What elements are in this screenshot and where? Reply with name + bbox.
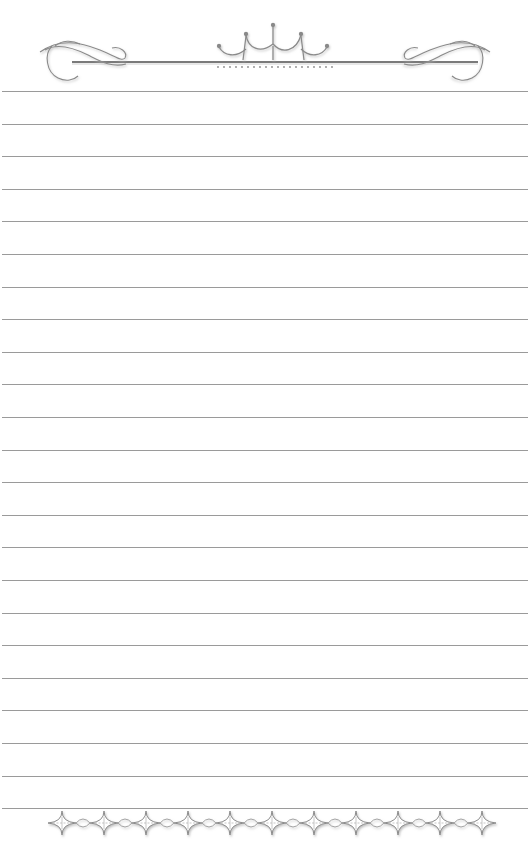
diamond-icon <box>300 811 328 835</box>
ruled-line <box>2 124 528 125</box>
ruled-line <box>2 254 528 255</box>
ruled-line <box>2 580 528 581</box>
ruled-line <box>2 352 528 353</box>
ruled-line <box>2 678 528 679</box>
diamond-icon <box>342 811 370 835</box>
right-scroll-flourish-icon <box>404 41 490 80</box>
ruled-line <box>2 189 528 190</box>
diamond-chain <box>48 811 496 835</box>
ruled-line <box>2 450 528 451</box>
ruled-line <box>2 287 528 288</box>
lined-paper-page <box>0 0 530 863</box>
diamond-icon <box>384 811 412 835</box>
ruled-line <box>2 221 528 222</box>
center-crown-icon <box>218 24 329 61</box>
diamond-icon <box>132 811 160 835</box>
ruled-line <box>2 613 528 614</box>
diamond-icon <box>468 811 496 835</box>
diamond-icon <box>426 811 454 835</box>
ruled-line <box>2 515 528 516</box>
ruled-line <box>2 547 528 548</box>
dotted-fringe <box>217 66 333 68</box>
header-bar <box>72 62 478 64</box>
footer-diamond-border <box>0 805 530 850</box>
diamond-icon <box>174 811 202 835</box>
ruled-line <box>2 482 528 483</box>
ruled-line <box>2 645 528 646</box>
header-flourish-ornament <box>0 0 530 85</box>
diamond-icon <box>90 811 118 835</box>
left-scroll-flourish-icon <box>40 41 126 80</box>
diamond-icon <box>216 811 244 835</box>
ruled-line <box>2 156 528 157</box>
ruled-line <box>2 710 528 711</box>
diamond-icon <box>258 811 286 835</box>
ruled-line <box>2 776 528 777</box>
ruled-line <box>2 417 528 418</box>
diamond-icon <box>48 811 76 835</box>
ruled-line <box>2 743 528 744</box>
ruled-line <box>2 384 528 385</box>
ruled-line <box>2 319 528 320</box>
ruled-line <box>2 91 528 92</box>
